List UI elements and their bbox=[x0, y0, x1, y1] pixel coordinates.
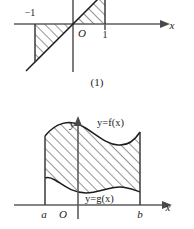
label-one: 1 bbox=[103, 29, 108, 40]
figure-1-caption: (1) bbox=[0, 76, 194, 88]
label-origin: O bbox=[59, 208, 67, 220]
figure-3: y x a b O y=f(x) y=g(x) (3) bbox=[0, 104, 194, 229]
label-negative-one: −1 bbox=[25, 7, 36, 18]
label-x-axis: x bbox=[165, 201, 171, 213]
y-axis-arrowhead bbox=[74, 116, 82, 126]
figure-1-graphic: −1 1 O x bbox=[0, 0, 194, 104]
figure-1: −1 1 O x (1) bbox=[0, 0, 194, 104]
label-y-axis: y bbox=[69, 118, 75, 130]
label-lower-curve: y=g(x) bbox=[85, 193, 114, 205]
figure-3-graphic: y x a b O y=f(x) y=g(x) bbox=[0, 104, 194, 229]
label-upper-curve: y=f(x) bbox=[97, 117, 124, 129]
label-origin: O bbox=[78, 27, 86, 39]
x-axis-arrowhead bbox=[160, 20, 170, 28]
label-x-axis: x bbox=[169, 19, 175, 31]
region-right-hatched bbox=[73, 0, 105, 24]
label-a: a bbox=[41, 208, 47, 220]
label-b: b bbox=[137, 208, 143, 220]
